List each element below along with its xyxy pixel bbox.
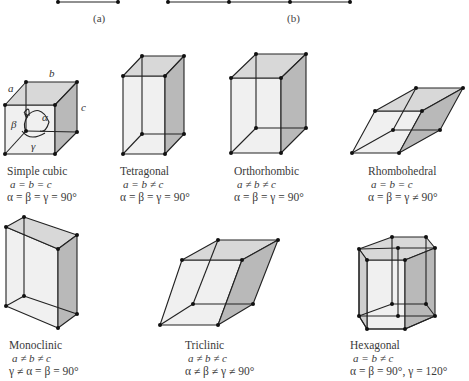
angle-label-alpha: α: [42, 111, 48, 123]
lattice-lengths: a ≠ b ≠ c: [185, 352, 254, 365]
angle-label-gamma: γ: [31, 140, 36, 152]
lattice-angles: α = β = 90°, γ = 120°: [350, 365, 447, 378]
angle-label-beta: β: [10, 118, 17, 130]
rhombohedral-cell: [352, 88, 463, 153]
system-name: Simple cubic: [7, 165, 77, 178]
monoclinic-cell: [6, 217, 77, 328]
tetragonal-cell: [123, 56, 184, 154]
lattice-lengths: a = b = c: [368, 178, 438, 191]
system-name: Hexagonal: [350, 339, 447, 352]
lattice-angles: γ ≠ α = β = 90°: [9, 365, 79, 378]
lattice-angles: α = β = γ = 90°: [120, 191, 190, 204]
triclinic-cell: [160, 240, 278, 325]
lattice-lengths: a ≠ b ≠ c: [234, 178, 304, 191]
lattice-row-b: [168, 0, 350, 2]
system-name: Triclinic: [185, 339, 254, 352]
label-tetragonal: Tetragonal a = b ≠ c α = β = γ = 90°: [120, 165, 190, 204]
lattice-row-a: [58, 0, 118, 2]
axis-label-c: c: [81, 101, 86, 113]
lattice-lengths: a = b ≠ c: [350, 352, 447, 365]
label-orthorhombic: Orthorhombic a ≠ b ≠ c α = β = γ = 90°: [234, 165, 304, 204]
label-monoclinic: Monoclinic a ≠ b ≠ c γ ≠ α = β = 90°: [9, 339, 79, 378]
lattice-lengths: a ≠ b ≠ c: [9, 352, 79, 365]
axis-label-b: b: [49, 67, 55, 79]
axis-label-a: a: [8, 82, 14, 94]
lattice-lengths: a = b = c: [7, 178, 77, 191]
system-name: Orthorhombic: [234, 165, 304, 178]
label-triclinic: Triclinic a ≠ b ≠ c α ≠ β ≠ γ ≠ 90°: [185, 339, 254, 378]
label-rhombohedral: Rhombohedral a = b = c α = β = γ ≠ 90°: [368, 165, 438, 204]
orthorhombic-cell: [231, 54, 306, 153]
label-simple-cubic: Simple cubic a = b = c α = β = γ = 90°: [7, 165, 77, 204]
lattice-lengths: a = b ≠ c: [120, 178, 190, 191]
lattice-angles: α ≠ β ≠ γ ≠ 90°: [185, 365, 254, 378]
system-name: Tetragonal: [120, 165, 190, 178]
label-hexagonal: Hexagonal a = b ≠ c α = β = 90°, γ = 120…: [350, 339, 447, 378]
system-name: Rhombohedral: [368, 165, 438, 178]
lattice-angles: α = β = γ = 90°: [234, 191, 304, 204]
system-name: Monoclinic: [9, 339, 79, 352]
caption-a: (a): [93, 12, 105, 24]
caption-b: (b): [287, 12, 300, 24]
lattice-angles: α = β = γ ≠ 90°: [368, 191, 438, 204]
lattice-angles: α = β = γ = 90°: [7, 191, 77, 204]
